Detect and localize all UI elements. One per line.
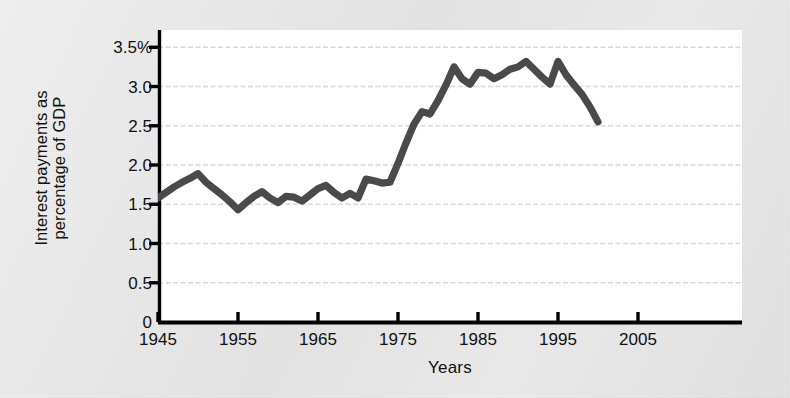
plot-area [0,0,790,398]
figure-canvas: Interest payments as percentage of GDP 0… [0,0,790,398]
line-chart: Interest payments as percentage of GDP 0… [0,0,790,398]
